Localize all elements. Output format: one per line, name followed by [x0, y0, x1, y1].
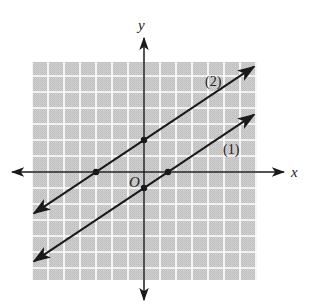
origin-label: O [129, 174, 140, 190]
line-label-1: (1) [223, 142, 240, 158]
intercept-point [141, 185, 147, 191]
intercept-point [165, 169, 171, 175]
line-label-2: (2) [205, 74, 222, 90]
intercept-point [141, 137, 147, 143]
intercept-point [93, 169, 99, 175]
x-axis-label: x [290, 164, 298, 180]
coordinate-plane: x y O (2) (1) [0, 0, 310, 308]
y-axis-label: y [136, 17, 145, 33]
